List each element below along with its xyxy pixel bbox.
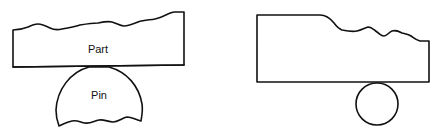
diagram-canvas: Part Pin (0, 0, 436, 133)
right-part-outline (257, 15, 429, 82)
left-diagram: Part Pin (13, 12, 184, 126)
part-label: Part (88, 43, 108, 55)
pin-label: Pin (91, 89, 107, 101)
left-part-outline (13, 12, 184, 67)
right-diagram (257, 15, 429, 125)
right-pin-circle (356, 83, 398, 125)
